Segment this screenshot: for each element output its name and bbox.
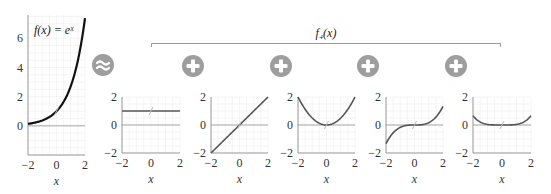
x-axis-label: x xyxy=(411,172,418,186)
plot-term3: −202−202x xyxy=(368,90,446,186)
plot-term1: −202−202x xyxy=(193,90,271,186)
x-tick-label: 2 xyxy=(352,156,358,170)
approx-circle xyxy=(92,54,114,76)
x-tick-label: 0 xyxy=(148,156,154,170)
plus-icon xyxy=(357,55,379,77)
plus-bar-v xyxy=(279,60,283,73)
x-tick-label: 2 xyxy=(528,156,534,170)
x-tick-label: −2 xyxy=(380,156,393,170)
y-tick-label: 2 xyxy=(375,90,381,104)
approx-icon xyxy=(92,54,114,76)
x-tick-label: 2 xyxy=(82,158,88,172)
x-tick-label: 0 xyxy=(324,156,330,170)
bracket-line xyxy=(152,44,501,48)
y-tick-label: 2 xyxy=(17,90,23,104)
plus-bar-v xyxy=(454,60,458,73)
x-tick-label: 2 xyxy=(177,156,183,170)
x-tick-label: 0 xyxy=(54,158,60,172)
y-tick-label: 4 xyxy=(17,61,23,75)
y-tick-label: 0 xyxy=(200,118,206,132)
x-axis-label: x xyxy=(498,172,505,186)
plot-title: f(x) = eˣ xyxy=(34,23,74,37)
y-tick-label: 0 xyxy=(462,118,468,132)
plot-term4: −202−202x xyxy=(455,90,534,186)
x-tick-label: 2 xyxy=(265,156,271,170)
y-tick-label: 0 xyxy=(17,119,23,133)
x-axis-label: x xyxy=(323,172,330,186)
x-tick-label: 0 xyxy=(237,156,243,170)
y-tick-label: 0 xyxy=(375,118,381,132)
plus-icon xyxy=(182,55,204,77)
x-tick-label: −2 xyxy=(205,156,218,170)
x-tick-label: −2 xyxy=(22,158,35,172)
y-tick-label: 2 xyxy=(462,90,468,104)
y-tick-label: 0 xyxy=(287,118,293,132)
caption xyxy=(0,186,551,194)
plot-term2: −202−202x xyxy=(280,90,358,186)
y-tick-label: 2 xyxy=(287,90,293,104)
x-tick-label: 0 xyxy=(412,156,418,170)
plus-icon xyxy=(270,55,292,77)
bracket-label: f₄(x) xyxy=(316,26,337,40)
x-axis-label: x xyxy=(147,172,154,186)
f4-bracket: f₄(x) xyxy=(152,26,501,47)
y-tick-label: 2 xyxy=(111,90,117,104)
x-tick-label: 2 xyxy=(440,156,446,170)
x-tick-label: −2 xyxy=(467,156,480,170)
y-tick-label: 2 xyxy=(200,90,206,104)
plot-term0: −202−202x xyxy=(104,90,183,186)
x-axis-label: x xyxy=(236,172,243,186)
x-tick-label: 0 xyxy=(499,156,505,170)
plus-bar-v xyxy=(191,60,195,73)
x-tick-label: −2 xyxy=(116,156,129,170)
y-tick-label: 6 xyxy=(17,31,23,45)
taylor-series-figure: 0246−202xf(x) = eˣ−202−202x−202−202x−202… xyxy=(0,0,551,194)
y-tick-label: 0 xyxy=(111,118,117,132)
plot-main: 0246−202xf(x) = eˣ xyxy=(17,15,88,188)
plus-icon xyxy=(445,55,467,77)
x-tick-label: −2 xyxy=(292,156,305,170)
plus-bar-v xyxy=(366,60,370,73)
